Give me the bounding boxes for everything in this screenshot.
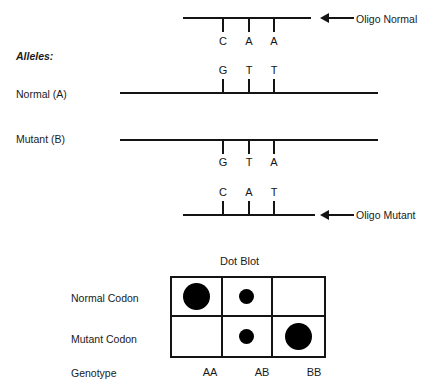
strand-line-oligo-mutant	[183, 214, 315, 216]
blot-cell-mutant-BB	[273, 317, 324, 356]
tick-allele-mutant-3	[273, 141, 275, 154]
base-allele-normal-2: T	[242, 65, 256, 76]
genotype-axis-label: Genotype	[71, 367, 117, 379]
row-label-mutant-allele: Mutant (B)	[16, 133, 65, 145]
genotype-column-label-BB: BB	[294, 366, 334, 378]
dot-blot-title: Dot Blot	[220, 255, 259, 267]
tick-oligo-normal-2	[248, 19, 250, 32]
row-label-normal-allele: Normal (A)	[16, 88, 67, 100]
blot-dot-normal-AA	[183, 283, 210, 310]
blot-cell-normal-AB	[223, 278, 274, 317]
arrow-oligo-mutant-icon	[320, 210, 354, 220]
tick-allele-mutant-1	[222, 141, 224, 154]
strand-line-allele-normal	[120, 92, 378, 94]
base-allele-mutant-2: T	[242, 157, 256, 168]
dot-blot-row-label-normal-codon: Normal Codon	[71, 292, 139, 304]
dot-blot-row-label-mutant-codon: Mutant Codon	[71, 333, 137, 345]
base-allele-normal-1: G	[216, 65, 230, 76]
tick-allele-normal-2	[248, 79, 250, 92]
base-oligo-normal-1: C	[216, 36, 230, 47]
blot-dot-normal-AB	[239, 289, 254, 304]
genotype-column-label-AA: AA	[190, 366, 230, 378]
tick-oligo-mutant-1	[222, 201, 224, 214]
tick-oligo-normal-3	[273, 19, 275, 32]
base-oligo-normal-3: A	[267, 36, 281, 47]
dot-blot-grid	[170, 276, 326, 358]
tick-oligo-mutant-3	[273, 201, 275, 214]
blot-cell-normal-AA	[172, 278, 223, 317]
base-oligo-normal-2: A	[242, 36, 256, 47]
tick-allele-mutant-2	[248, 141, 250, 154]
blot-cell-mutant-AB	[223, 317, 274, 356]
base-allele-mutant-3: A	[267, 157, 281, 168]
alleles-section-label: Alleles:	[16, 50, 53, 62]
blot-cell-mutant-AA	[172, 317, 223, 356]
base-oligo-mutant-1: C	[216, 187, 230, 198]
blot-dot-mutant-AB	[239, 329, 254, 344]
base-allele-mutant-1: G	[216, 157, 230, 168]
tick-oligo-mutant-2	[248, 201, 250, 214]
genotype-column-label-AB: AB	[242, 366, 282, 378]
callout-oligo-normal: Oligo Normal	[356, 13, 417, 25]
tick-allele-normal-3	[273, 79, 275, 92]
aso-hybridization-figure: C A A Oligo Normal Alleles: Normal (A) G…	[0, 0, 438, 390]
arrow-oligo-normal-icon	[320, 13, 354, 23]
tick-allele-normal-1	[222, 79, 224, 92]
tick-oligo-normal-1	[222, 19, 224, 32]
base-allele-normal-3: T	[267, 65, 281, 76]
callout-oligo-mutant: Oligo Mutant	[356, 209, 416, 221]
blot-dot-mutant-BB	[285, 323, 312, 350]
base-oligo-mutant-2: A	[242, 187, 256, 198]
strand-line-oligo-normal	[183, 17, 311, 19]
base-oligo-mutant-3: T	[267, 187, 281, 198]
blot-cell-normal-BB	[273, 278, 324, 317]
